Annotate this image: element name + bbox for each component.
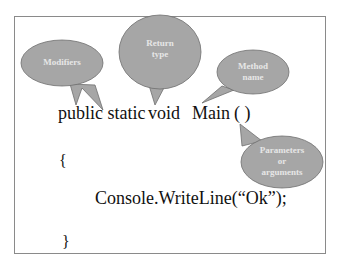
parameters-line3: arguments bbox=[250, 167, 314, 178]
method-name-line2: name bbox=[228, 72, 278, 83]
code-body: Console.WriteLine(“Ok”); bbox=[95, 188, 287, 209]
return-type-callout bbox=[119, 15, 201, 105]
parameters-line2: or bbox=[250, 156, 314, 167]
code-open-brace: { bbox=[59, 152, 67, 170]
return-type-line1: Return bbox=[140, 38, 180, 49]
method-name-line1: Method bbox=[228, 61, 278, 72]
parameters-label: Parameters or arguments bbox=[250, 145, 314, 178]
code-public-static: public static bbox=[58, 103, 145, 124]
method-name-label: Method name bbox=[228, 61, 278, 83]
code-close-brace: } bbox=[62, 233, 70, 251]
modifiers-label: Modifiers bbox=[36, 57, 88, 68]
return-type-label: Return type bbox=[140, 38, 180, 60]
parameters-line1: Parameters bbox=[250, 145, 314, 156]
code-main: Main bbox=[192, 103, 230, 124]
return-type-line2: type bbox=[140, 49, 180, 60]
code-void: void bbox=[148, 103, 180, 124]
modifiers-callout bbox=[21, 40, 103, 110]
code-parens: ( ) bbox=[234, 103, 251, 124]
